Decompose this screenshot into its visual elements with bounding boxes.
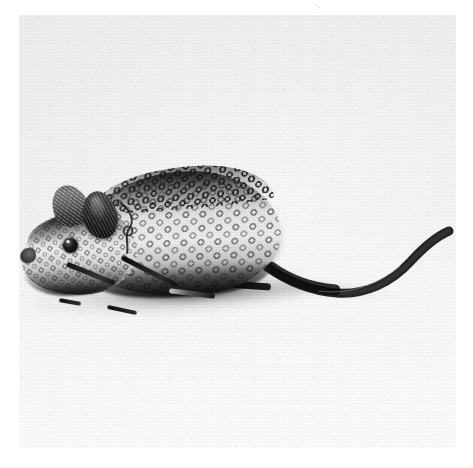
scan-speck-artifact: [314, 3, 321, 11]
caption-area: [0, 450, 473, 468]
page: [0, 0, 473, 468]
eye-highlight: [66, 240, 70, 243]
mouse-figurine: [19, 15, 456, 448]
photograph: [19, 15, 456, 448]
